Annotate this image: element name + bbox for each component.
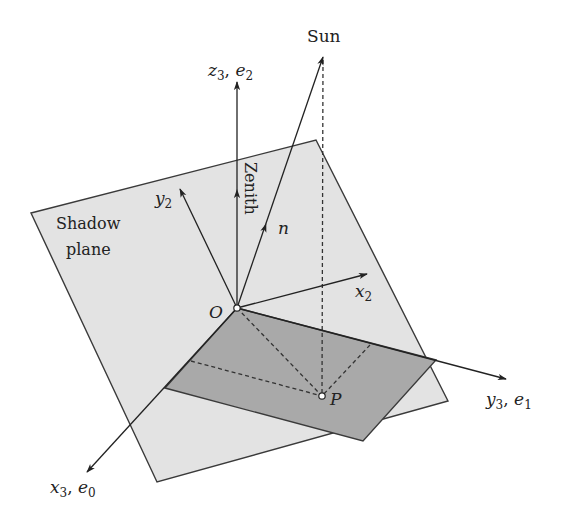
label-zenith: Zenith xyxy=(241,162,260,215)
diagram-canvas: Sun z3, e2 Zenith y2 n Shadow plane x2 O… xyxy=(0,0,564,519)
label-n: n xyxy=(278,218,289,238)
label-x3-e0: x3, e0 xyxy=(50,477,96,500)
diagram-svg: Sun z3, e2 Zenith y2 n Shadow plane x2 O… xyxy=(0,0,564,519)
label-sun: Sun xyxy=(307,26,341,46)
label-y3-e1: y3, e1 xyxy=(485,389,532,412)
label-shadow-plane-line1: Shadow xyxy=(56,214,121,233)
label-shadow-plane-line2: plane xyxy=(66,240,111,259)
point-p xyxy=(319,393,325,399)
label-origin: O xyxy=(209,302,223,322)
label-z3-e2: z3, e2 xyxy=(207,60,253,83)
origin-point xyxy=(234,305,240,311)
label-p: P xyxy=(329,389,342,409)
